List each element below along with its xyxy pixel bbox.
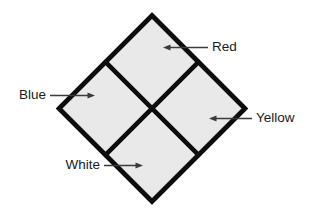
- label-yellow: Yellow: [256, 110, 295, 125]
- label-blue: Blue: [19, 87, 46, 102]
- diamond-quadrant-diagram: Red Blue Yellow White: [0, 0, 309, 211]
- diagram-canvas: Red Blue Yellow White: [0, 0, 309, 211]
- label-red: Red: [212, 39, 237, 54]
- label-white: White: [65, 157, 100, 172]
